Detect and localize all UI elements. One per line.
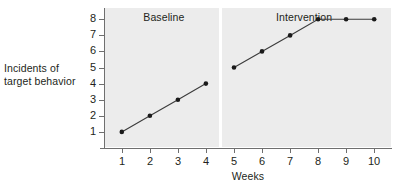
data-point xyxy=(372,17,377,22)
series-line-intervention xyxy=(234,19,374,67)
series-line-baseline xyxy=(122,84,206,132)
data-point xyxy=(288,33,293,38)
data-point xyxy=(120,130,125,135)
data-point xyxy=(176,97,181,102)
data-point xyxy=(260,49,265,54)
data-point xyxy=(344,17,349,22)
data-point xyxy=(316,17,321,22)
data-layer xyxy=(0,0,403,189)
x-axis-title: Weeks xyxy=(105,170,391,182)
data-point xyxy=(204,81,209,86)
data-point xyxy=(148,114,153,119)
data-point xyxy=(232,65,237,70)
single-subject-line-chart: Incidents of target behavior 12345678 12… xyxy=(0,0,403,189)
